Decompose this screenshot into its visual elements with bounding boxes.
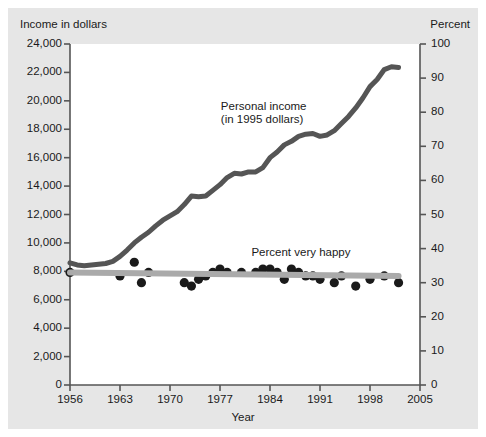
- x-tick-label: 2005: [390, 393, 450, 405]
- left-tick-label: 8,000: [4, 264, 62, 276]
- left-tick-label: 0: [4, 378, 62, 390]
- right-tick-label: 100: [431, 37, 471, 49]
- right-tick-label: 20: [431, 310, 471, 322]
- right-tick-label: 40: [431, 242, 471, 254]
- left-tick-label: 24,000: [4, 37, 62, 49]
- annotation-line-2: (in 1995 dollars): [221, 113, 307, 127]
- right-tick-label: 10: [431, 344, 471, 356]
- annotation-line-1: Percent very happy: [251, 246, 350, 260]
- right-tick-label: 0: [431, 378, 471, 390]
- right-tick-label: 80: [431, 105, 471, 117]
- right-tick-label: 30: [431, 276, 471, 288]
- right-tick-label: 90: [431, 71, 471, 83]
- series-annotation-percent-very-happy: Percent very happy: [251, 246, 350, 260]
- left-tick-label: 18,000: [4, 122, 62, 134]
- right-tick-label: 60: [431, 173, 471, 185]
- left-tick-label: 12,000: [4, 208, 62, 220]
- left-tick-label: 10,000: [4, 236, 62, 248]
- annotation-line-1: Personal income: [221, 100, 307, 114]
- right-tick-label: 50: [431, 208, 471, 220]
- left-tick-label: 16,000: [4, 151, 62, 163]
- left-tick-label: 22,000: [4, 65, 62, 77]
- chart-figure: Income in dollars Percent Year 02,0004,0…: [0, 0, 486, 437]
- series-annotation-personal-income: Personal income (in 1995 dollars): [221, 100, 307, 127]
- plot-area: [0, 0, 486, 437]
- left-tick-label: 4,000: [4, 321, 62, 333]
- left-tick-label: 2,000: [4, 350, 62, 362]
- left-tick-label: 6,000: [4, 293, 62, 305]
- left-tick-label: 20,000: [4, 94, 62, 106]
- right-tick-label: 70: [431, 139, 471, 151]
- left-tick-label: 14,000: [4, 179, 62, 191]
